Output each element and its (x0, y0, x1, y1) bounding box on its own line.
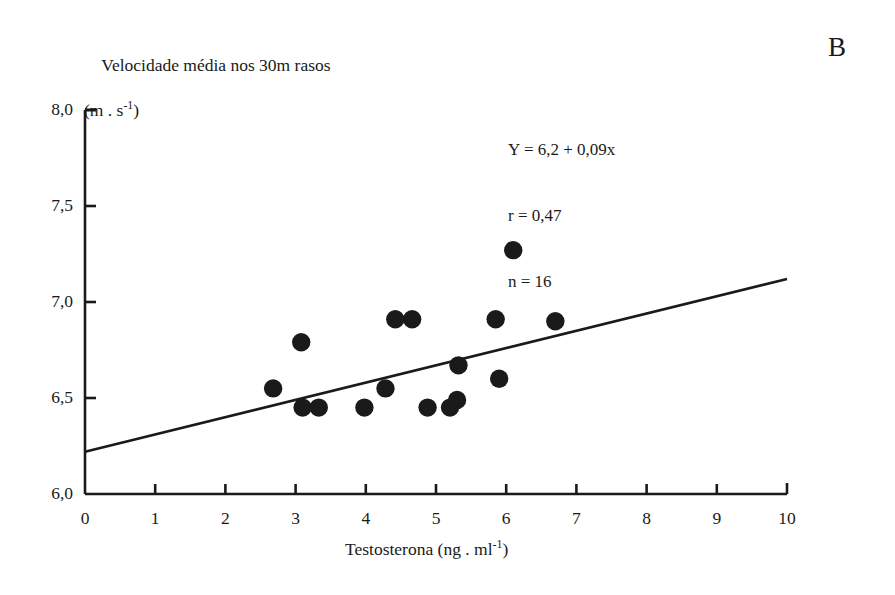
data-point-marker (376, 379, 394, 397)
regression-line (85, 279, 787, 452)
y-tick-label: 6,5 (33, 387, 73, 408)
regression-fit-line (85, 279, 787, 452)
data-points (264, 241, 565, 417)
data-point-marker (355, 398, 373, 416)
figure-panel-b: B Velocidade média nos 30m rasos (m . s-… (0, 0, 895, 595)
x-tick-label: 8 (630, 508, 664, 529)
data-point-marker (264, 379, 282, 397)
x-tick-label: 4 (349, 508, 383, 529)
data-point-marker (292, 333, 310, 351)
x-tick-label: 6 (489, 508, 523, 529)
x-tick-label: 9 (700, 508, 734, 529)
data-point-marker (504, 241, 522, 259)
y-tick-label: 6,0 (33, 483, 73, 504)
data-point-marker (386, 310, 404, 328)
x-tick-label: 5 (419, 508, 453, 529)
axis-ticks (85, 110, 717, 494)
data-point-marker (486, 310, 504, 328)
y-tick-label: 7,0 (33, 291, 73, 312)
scatter-plot-canvas (0, 0, 895, 595)
x-tick-label: 3 (279, 508, 313, 529)
x-tick-label: 1 (138, 508, 172, 529)
data-point-marker (448, 391, 466, 409)
data-point-marker (449, 356, 467, 374)
data-point-marker (546, 312, 564, 330)
y-tick-label: 8,0 (33, 99, 73, 120)
y-tick-label: 7,5 (33, 195, 73, 216)
data-point-marker (310, 398, 328, 416)
x-tick-label: 7 (559, 508, 593, 529)
data-point-marker (403, 310, 421, 328)
data-point-marker (293, 398, 311, 416)
x-tick-label: 10 (770, 508, 804, 529)
x-tick-label: 2 (208, 508, 242, 529)
data-point-marker (490, 370, 508, 388)
data-point-marker (418, 398, 436, 416)
axes (85, 110, 787, 494)
x-tick-label: 0 (68, 508, 102, 529)
